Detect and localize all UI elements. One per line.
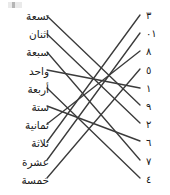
connection-line-6 [47, 51, 140, 124]
matching-exercise-worksheet: تسعةاثنانسبعةواحدأربعةستةثمانيةثلاثةعشرة… [0, 0, 170, 195]
numeral-item-9[interactable]: ٤ [143, 173, 170, 187]
connection-line-2 [47, 52, 140, 160]
number-words-column: تسعةاثنانسبعةواحدأربعةستةثمانيةثلاثةعشرة… [2, 0, 50, 195]
connection-line-5 [47, 106, 140, 141]
numerals-column: ٣١٠٨٥١٩٢٦٧٤ [143, 0, 169, 195]
numeral-item-2[interactable]: ٨ [143, 45, 170, 59]
numeral-item-6[interactable]: ٢ [143, 118, 170, 132]
word-item-7[interactable]: ثلاثة [1, 136, 50, 150]
word-item-8[interactable]: عشرة [1, 155, 50, 169]
word-item-5[interactable]: ستة [1, 100, 50, 114]
connection-line-4 [47, 88, 140, 178]
word-item-9[interactable]: خمسة [1, 173, 50, 187]
word-item-3[interactable]: واحد [1, 64, 50, 78]
connection-line-8 [47, 33, 140, 160]
word-item-0[interactable]: تسعة [1, 9, 50, 23]
word-item-1[interactable]: اثنان [1, 27, 50, 41]
connection-line-3 [47, 70, 140, 88]
numeral-item-0[interactable]: ٣ [143, 9, 170, 23]
word-item-6[interactable]: ثمانية [1, 118, 50, 132]
word-item-4[interactable]: أربعة [1, 82, 50, 96]
connection-line-9 [47, 69, 140, 178]
numeral-item-4[interactable]: ١ [143, 82, 170, 96]
numeral-item-7[interactable]: ٦ [143, 136, 170, 150]
connection-line-0 [47, 16, 140, 105]
numeral-item-3[interactable]: ٥ [143, 64, 170, 78]
connection-line-7 [47, 15, 140, 142]
numeral-item-1[interactable]: ١٠ [143, 27, 170, 41]
connection-line-1 [47, 34, 140, 123]
numeral-item-8[interactable]: ٧ [143, 155, 170, 169]
numeral-item-5[interactable]: ٩ [143, 100, 170, 114]
word-item-2[interactable]: سبعة [1, 45, 50, 59]
